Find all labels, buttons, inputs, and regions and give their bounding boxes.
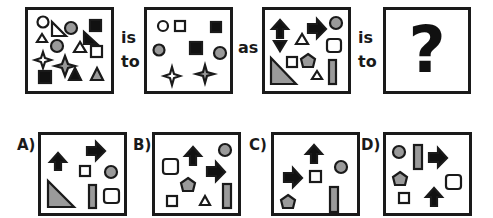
gray-pentagon-icon [301,54,315,67]
source-b-panel [262,7,351,94]
black-up-arrow-icon [272,20,288,38]
connector-is-2: is [358,30,373,46]
gray-bar-icon [330,187,338,212]
gray-right-triangle-icon [48,181,74,207]
gray-circle-icon [65,22,77,34]
black-right-arrow-icon [87,142,105,160]
option-c-label: C) [249,138,267,153]
source-b-shapes [265,10,348,91]
gray-circle-icon [105,166,117,178]
white-rounded-square-icon [446,175,461,189]
gray-circle-icon [154,45,165,56]
gray-circle-icon [219,144,231,156]
white-square-icon [91,46,102,57]
white-square-icon [399,193,409,203]
white-triangle-icon [37,34,47,42]
option-b-shapes [155,135,238,213]
gray-circle-icon [335,161,347,173]
black-right-arrow-icon [429,148,447,167]
black-square-icon [211,22,221,32]
gray-bar-icon [414,145,422,169]
black-right-triangle-icon [84,32,97,44]
black-up-arrow-icon [50,153,66,170]
question-mark-icon: ? [386,18,468,82]
white-square-icon [310,171,321,182]
source-a-shapes [28,10,111,91]
result-b-panel: ? [383,7,471,94]
gray-pentagon-icon [281,195,295,208]
result-a-shapes [147,10,230,91]
option-a-panel[interactable] [38,132,127,216]
white-rounded-square-icon [327,39,341,52]
option-d-shapes [386,135,469,213]
option-d-panel[interactable] [383,132,472,216]
connector-is-1: is [121,30,136,46]
white-square-icon [287,57,297,67]
gray-pentagon-icon [181,178,195,191]
result-a-panel [144,7,233,94]
option-a-shapes [41,135,124,213]
gray-circle-icon [51,40,63,52]
white-triangle-icon [200,196,210,205]
black-up-arrow-icon [185,147,201,165]
black-up-arrow-icon [306,145,322,163]
option-a-label: A) [17,138,35,153]
gray-triangle-icon [91,68,103,80]
gray-pentagon-icon [393,172,407,185]
option-c-shapes [274,135,357,213]
white-square-icon [175,21,185,31]
black-right-arrow-icon [284,168,302,187]
white-star-icon [35,52,51,68]
connector-to-1: to [121,54,140,70]
gray-circle-icon [330,17,342,29]
black-right-arrow-icon [207,162,225,181]
gray-circle-icon [214,47,226,59]
source-a-panel [25,7,114,94]
gray-bar-icon [89,185,96,208]
white-square-icon [167,196,177,206]
white-circle-icon [38,17,49,28]
black-right-arrow-icon [308,19,326,38]
option-c-panel[interactable] [271,132,360,216]
black-down-arrow-icon [274,41,286,51]
white-rounded-square-icon [104,189,119,203]
gray-bar-icon [329,60,336,84]
white-circle-icon [158,21,168,31]
connector-to-2: to [358,54,377,70]
black-triangle-icon [69,68,81,80]
option-b-label: B) [133,138,151,153]
white-right-triangle-icon [52,22,66,36]
connector-as: as [238,40,258,56]
gray-bar-icon [223,184,231,208]
white-star-icon [164,67,180,85]
white-triangle-icon [296,34,308,44]
black-up-arrow-icon [426,188,442,206]
white-square-icon [80,166,90,176]
white-triangle-small-icon [312,71,322,79]
black-square-icon [39,71,51,83]
black-square-icon [190,42,202,54]
gray-circle-icon [393,146,405,158]
gray-star-icon [196,65,214,83]
black-square-icon [90,20,101,31]
white-rounded-square-icon [163,159,178,174]
option-b-panel[interactable] [152,132,241,216]
option-d-label: D) [361,138,380,153]
